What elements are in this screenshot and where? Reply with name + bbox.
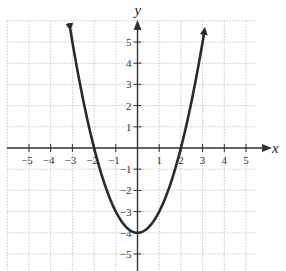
y-tick-label: −5 <box>120 248 132 260</box>
y-tick-label: 4 <box>126 57 132 69</box>
x-axis-label: x <box>271 140 279 156</box>
y-tick-label: −4 <box>120 227 132 239</box>
x-tick-label: −1 <box>108 154 120 166</box>
y-tick-label: 2 <box>126 100 132 112</box>
y-tick-label: 5 <box>126 36 132 48</box>
y-tick-label: 3 <box>126 78 132 90</box>
x-tick-label: 3 <box>200 154 206 166</box>
y-tick-label: 1 <box>126 121 132 133</box>
grid-lines <box>7 21 257 271</box>
coordinate-plane: −5−4−3−2−11234554321−1−2−3−4−5 x y <box>0 0 286 271</box>
x-tick-label: −4 <box>43 154 55 166</box>
x-tick-label: 5 <box>243 154 249 166</box>
x-tick-label: 4 <box>222 154 228 166</box>
x-tick-label: −5 <box>21 154 33 166</box>
x-tick-label: 1 <box>156 154 162 166</box>
y-axis-label: y <box>133 2 142 18</box>
y-tick-label: −1 <box>120 163 132 175</box>
y-tick-label: −2 <box>120 184 132 196</box>
y-tick-label: −3 <box>120 206 132 218</box>
x-tick-label: −3 <box>65 154 77 166</box>
